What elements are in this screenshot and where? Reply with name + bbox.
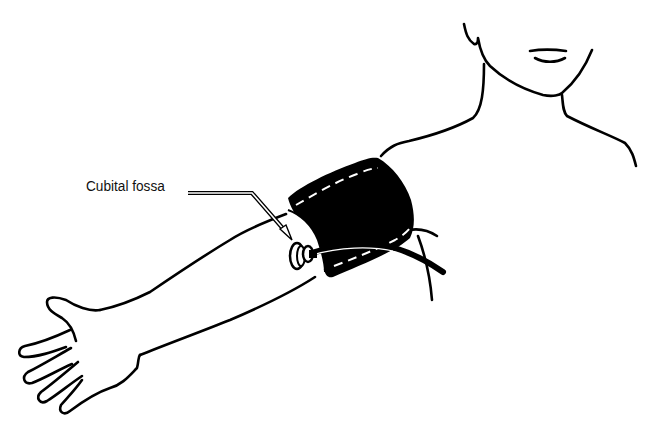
diagram-canvas: Cubital fossa xyxy=(0,0,657,425)
label-cubital-fossa: Cubital fossa xyxy=(86,177,165,195)
arm-illustration xyxy=(0,0,657,425)
hand-outline xyxy=(19,298,140,414)
forearm-outline xyxy=(100,214,315,355)
head-neck-outline xyxy=(381,24,636,166)
